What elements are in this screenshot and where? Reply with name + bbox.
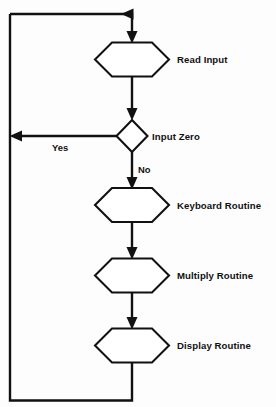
diamond-shape-input-zero[interactable] <box>117 120 148 152</box>
node-read-input[interactable]: Read Input <box>95 43 228 77</box>
node-label-multiply-routine: Multiply Routine <box>177 270 253 281</box>
hexagon-shape-display-routine[interactable] <box>95 329 169 363</box>
node-label-read-input: Read Input <box>177 54 228 65</box>
edge-label-no: No <box>138 164 151 175</box>
edge-label-yes: Yes <box>52 142 68 153</box>
node-label-display-routine: Display Routine <box>177 340 251 351</box>
hexagon-shape-read-input[interactable] <box>95 43 169 77</box>
flowchart-canvas: Read Input Input Zero Keyboard Routine M… <box>0 0 276 407</box>
node-input-zero[interactable]: Input Zero <box>117 120 200 152</box>
hexagon-shape-keyboard-routine[interactable] <box>95 188 169 222</box>
flowchart-svg: Read Input Input Zero Keyboard Routine M… <box>0 0 276 407</box>
node-label-keyboard-routine: Keyboard Routine <box>177 200 261 211</box>
node-display-routine[interactable]: Display Routine <box>95 329 251 363</box>
connector-top-return-to-read-input <box>10 14 132 39</box>
node-multiply-routine[interactable]: Multiply Routine <box>95 259 253 293</box>
hexagon-shape-multiply-routine[interactable] <box>95 259 169 293</box>
arrow-yes-left-icon <box>10 131 23 142</box>
node-keyboard-routine[interactable]: Keyboard Routine <box>95 188 261 222</box>
node-label-input-zero: Input Zero <box>152 131 200 142</box>
arrow-top-right-icon <box>121 9 134 20</box>
